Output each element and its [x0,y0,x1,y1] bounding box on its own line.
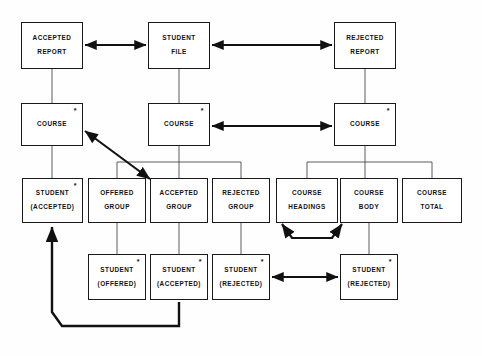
node-label-primary: STUDENT [224,267,257,274]
repeating-group-asterisk-icon: * [137,258,140,265]
node-label-secondary: (REJECTED) [220,281,263,288]
node-label-secondary: GROUP [166,204,192,211]
node-course-body[interactable]: COURSEBODY [340,178,398,223]
node-label-primary: COURSE [354,190,384,197]
course-headings-to-course-body-curve [282,224,342,238]
repeating-group-asterisk-icon: * [74,107,77,114]
node-course-middle[interactable]: COURSE* [148,103,210,146]
node-label-secondary: (ACCEPTED) [31,204,75,211]
node-label-primary: STUDENT [100,267,133,274]
node-label-secondary: REPORT [37,49,66,56]
node-course-headings[interactable]: COURSEHEADINGS [276,178,338,223]
course-left-to-accepted-group-diagonal-arrow [85,131,150,179]
node-label-secondary: HEADINGS [288,204,325,211]
node-label-primary: COURSE [37,121,67,128]
repeating-group-asterisk-icon: * [387,107,390,114]
node-student-offered[interactable]: STUDENT(OFFERED)* [88,254,146,300]
node-label-primary: COURSE [417,190,447,197]
repeating-group-asterisk-icon: * [261,258,264,265]
node-label-primary: OFFERED [100,190,134,197]
repeating-group-asterisk-icon: * [389,258,392,265]
node-label-primary: COURSE [350,121,380,128]
node-label-secondary: (OFFERED) [98,281,137,288]
node-label-primary: ACCEPTED [33,35,72,42]
repeating-group-asterisk-icon: * [199,258,202,265]
node-offered-group[interactable]: OFFEREDGROUP [88,178,146,223]
node-label-primary: STUDENT [352,267,385,274]
node-label-secondary: FILE [171,49,187,56]
repeating-group-asterisk-icon: * [74,182,77,189]
node-label-secondary: GROUP [228,204,254,211]
node-course-left[interactable]: COURSE* [21,103,83,146]
repeating-group-asterisk-icon: * [201,107,204,114]
node-rejected-report[interactable]: REJECTEDREPORT [334,22,396,69]
node-label-secondary: (REJECTED) [348,281,391,288]
node-label-primary: ACCEPTED [160,190,199,197]
node-label-secondary: TOTAL [421,204,444,211]
node-student-file[interactable]: STUDENTFILE [148,22,210,69]
node-label-primary: STUDENT [162,267,195,274]
node-accepted-report[interactable]: ACCEPTEDREPORT [21,22,83,69]
node-rejected-group[interactable]: REJECTEDGROUP [212,178,270,223]
node-label-secondary: GROUP [104,204,130,211]
node-label-secondary: BODY [359,204,379,211]
node-label-primary: STUDENT [36,190,69,197]
node-label-primary: COURSE [292,190,322,197]
node-label-primary: STUDENT [162,35,195,42]
node-student-rejected-right[interactable]: STUDENT(REJECTED)* [340,254,398,300]
node-label-primary: REJECTED [222,190,260,197]
node-student-accepted-bottom[interactable]: STUDENT(ACCEPTED)* [150,254,208,300]
node-student-accepted-left[interactable]: STUDENT(ACCEPTED)* [22,178,83,223]
node-label-primary: COURSE [164,121,194,128]
node-label-secondary: REPORT [350,49,379,56]
node-accepted-group[interactable]: ACCEPTEDGROUP [150,178,208,223]
diagram-canvas: ACCEPTEDREPORTSTUDENTFILEREJECTEDREPORTC… [0,0,482,356]
node-label-secondary: (ACCEPTED) [157,281,201,288]
node-course-total[interactable]: COURSETOTAL [402,178,462,223]
node-course-right[interactable]: COURSE* [334,103,396,146]
node-label-primary: REJECTED [346,35,384,42]
node-student-rejected-middle[interactable]: STUDENT(REJECTED)* [212,254,270,300]
